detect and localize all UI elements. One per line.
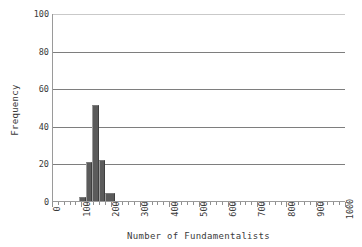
- x-axis-minor-tick: [275, 202, 276, 205]
- x-axis-minor-tick: [105, 202, 106, 205]
- x-axis-minor-tick: [210, 202, 211, 205]
- x-axis-minor-tick: [339, 202, 340, 205]
- x-axis-minor-tick: [310, 202, 311, 205]
- y-axis-tick-labels: 020406080100: [24, 14, 49, 202]
- x-axis-tick-label-text: 1000: [345, 199, 355, 219]
- x-axis-minor-tick: [70, 202, 71, 205]
- x-axis-minor-tick: [245, 202, 246, 205]
- x-axis-tick-label-text: 0: [52, 206, 62, 211]
- x-axis-minor-tick: [99, 202, 100, 205]
- x-axis-minor-tick: [75, 202, 76, 205]
- x-axis-minor-tick: [269, 202, 270, 205]
- x-axis-tick-label: 700: [252, 207, 262, 231]
- x-axis-minor-tick: [152, 202, 153, 205]
- x-axis-tick-label: 600: [223, 207, 233, 231]
- x-axis-title: Number of Fundamentalists: [52, 231, 345, 241]
- y-axis-tick-label: 60: [24, 85, 49, 94]
- x-axis-tick-label: 900: [311, 207, 321, 231]
- x-axis-minor-tick: [163, 202, 164, 205]
- x-axis-minor-tick: [134, 202, 135, 205]
- y-axis-tick-label: 40: [24, 123, 49, 132]
- x-axis-tick-label-text: 600: [228, 201, 238, 216]
- x-axis-minor-tick: [93, 202, 94, 205]
- x-axis-tick-label: 200: [106, 207, 116, 231]
- x-axis-tick-label-text: 200: [111, 201, 121, 216]
- x-axis-minor-tick: [304, 202, 305, 205]
- x-axis-tick-label-text: 700: [257, 201, 267, 216]
- plot-area: [52, 14, 345, 202]
- x-axis-tick-label-text: 900: [316, 201, 326, 216]
- x-axis-minor-tick: [251, 202, 252, 205]
- x-axis-minor-tick: [222, 202, 223, 205]
- x-axis-minor-tick: [122, 202, 123, 205]
- x-axis-tick-label-text: 400: [169, 201, 179, 216]
- x-axis-tick-labels: 01002003004005006007008009001000: [52, 207, 345, 231]
- x-axis-minor-tick: [64, 202, 65, 205]
- histogram-bar: [105, 193, 114, 201]
- y-axis-title-label: Frequency: [10, 84, 20, 135]
- x-axis-minor-tick: [298, 202, 299, 205]
- y-axis-tick-label: 20: [24, 160, 49, 169]
- histogram-chart: Frequency 020406080100 01002003004005006…: [0, 0, 362, 247]
- x-axis-tick-label: 1000: [340, 207, 350, 231]
- x-axis-tick-label-text: 500: [199, 201, 209, 216]
- x-axis-minor-tick: [281, 202, 282, 205]
- x-axis-minor-tick: [216, 202, 217, 205]
- x-axis-tick-label-text: 800: [286, 201, 296, 216]
- bars-layer: [53, 14, 345, 201]
- y-axis-title: Frequency: [6, 60, 24, 160]
- x-axis-tick-label-text: 300: [140, 201, 150, 216]
- x-axis-minor-tick: [187, 202, 188, 205]
- x-axis-tick-label: 300: [135, 207, 145, 231]
- x-axis-tick-label: 500: [194, 207, 204, 231]
- x-axis-minor-tick: [157, 202, 158, 205]
- x-axis-minor-tick: [128, 202, 129, 205]
- x-axis-minor-tick: [193, 202, 194, 205]
- x-axis-minor-tick: [181, 202, 182, 205]
- x-axis-tick-label: 0: [47, 207, 57, 231]
- y-axis-tick-label: 80: [24, 47, 49, 56]
- x-axis-tick-label-text: 100: [81, 201, 91, 216]
- x-axis-minor-tick: [240, 202, 241, 205]
- x-axis-tick-label: 800: [281, 207, 291, 231]
- x-axis-tick-label: 100: [76, 207, 86, 231]
- y-axis-tick-label: 0: [24, 198, 49, 207]
- x-axis-minor-tick: [58, 202, 59, 205]
- x-axis-tick-label: 400: [164, 207, 174, 231]
- x-axis-minor-tick: [327, 202, 328, 205]
- y-axis-tick-label: 100: [24, 10, 49, 19]
- x-axis-minor-tick: [333, 202, 334, 205]
